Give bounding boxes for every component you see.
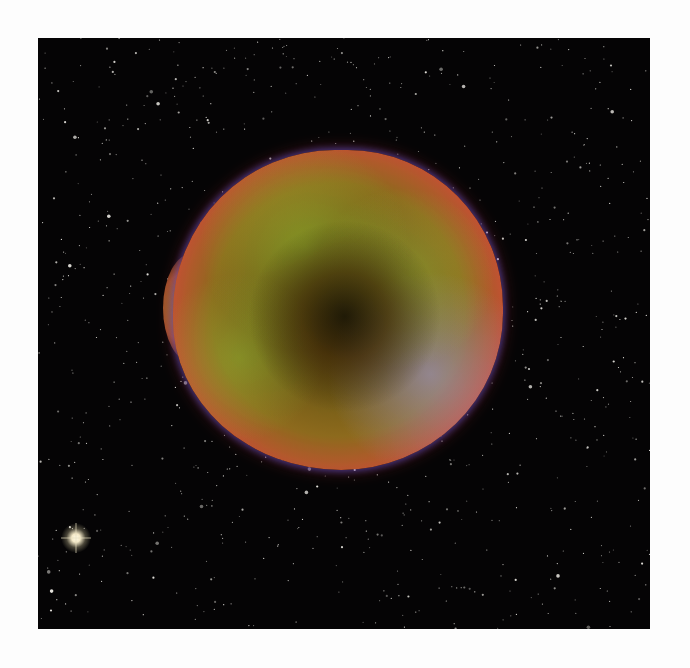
astronomy-image bbox=[38, 38, 650, 629]
supernova-remnant bbox=[173, 150, 503, 470]
bright-star bbox=[61, 523, 91, 553]
